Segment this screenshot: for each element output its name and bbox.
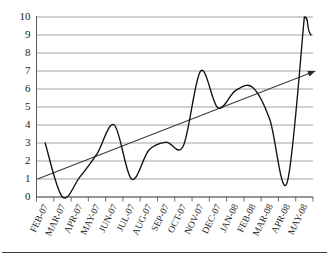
y-tick-label: 6 (25, 82, 31, 94)
x-axis-tick-labels: FEB-07MAR-07APR-07MAY-07JUN-07JUL-07AUG-… (28, 202, 310, 237)
chart-container: 012345678910 FEB-07MAR-07APR-07MAY-07JUN… (0, 0, 329, 260)
line-chart: 012345678910 FEB-07MAR-07APR-07MAY-07JUN… (0, 0, 329, 260)
y-tick-label: 3 (25, 136, 31, 148)
y-tick-label: 0 (25, 190, 31, 202)
y-tick-label: 4 (25, 118, 31, 130)
y-axis-tick-labels: 012345678910 (20, 10, 32, 202)
data-series-curve (45, 17, 311, 198)
y-tick-label: 5 (25, 100, 31, 112)
gridlines (37, 17, 314, 197)
x-axis-tickmarks (37, 197, 314, 202)
trend-arrowhead (307, 71, 315, 77)
y-tick-label: 8 (25, 46, 31, 58)
y-tick-label: 1 (25, 172, 31, 184)
y-tick-label: 9 (25, 28, 31, 40)
y-tick-label: 10 (20, 10, 32, 22)
y-tick-label: 2 (25, 154, 31, 166)
y-tick-label: 7 (25, 64, 31, 76)
series-line-value (45, 17, 311, 198)
